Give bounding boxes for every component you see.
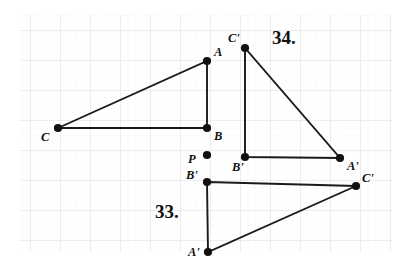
grid-area [20,15,392,252]
graph-paper-grid [0,0,415,275]
geometry-figure: A B C P C' B' A' B' C' A' 33. 34. [0,0,415,275]
